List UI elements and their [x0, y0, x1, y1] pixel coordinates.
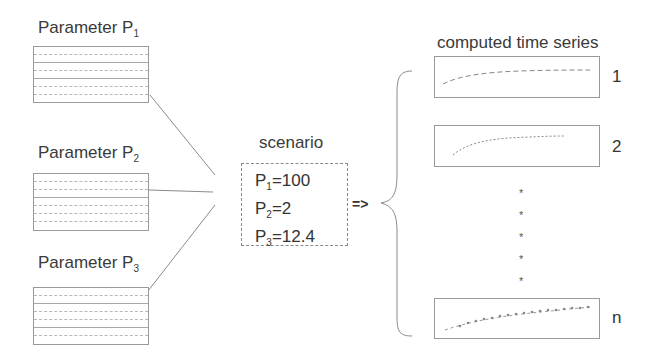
time-series-2-label: 2	[612, 137, 621, 157]
scenario-line-p2: P2=2	[255, 198, 347, 226]
connector-p2	[149, 190, 213, 192]
ellipsis-star: *	[519, 231, 523, 243]
param-name: P	[255, 227, 266, 246]
scenario-line-p3: P3=12.4	[255, 226, 347, 254]
table-row	[34, 79, 148, 87]
parameter-p3-title: Parameter P3	[38, 253, 139, 274]
table-row	[34, 206, 148, 214]
time-series-1-box	[434, 56, 600, 98]
table-row	[34, 182, 148, 190]
table-row	[34, 174, 148, 182]
table-row	[34, 71, 148, 79]
parameter-label: Parameter P	[38, 18, 133, 37]
table-row	[34, 47, 148, 55]
time-series-2-box	[434, 125, 600, 167]
time-series-1-label: 1	[612, 67, 621, 87]
parameter-p2-title: Parameter P2	[38, 143, 139, 164]
parameter-p1-table	[33, 46, 149, 103]
output-title: computed time series	[437, 33, 599, 53]
table-row	[34, 190, 148, 198]
parameter-subscript: 2	[133, 153, 139, 164]
parameter-p3-table	[33, 287, 149, 345]
param-value: =100	[272, 171, 310, 190]
table-row	[34, 304, 148, 312]
connector-p1	[150, 95, 215, 175]
ellipsis-star: *	[519, 275, 523, 287]
table-row	[34, 87, 148, 95]
param-value: =12.4	[272, 227, 315, 246]
table-row	[34, 312, 148, 320]
parameter-label: Parameter P	[38, 253, 133, 272]
parameter-p1-title: Parameter P1	[38, 18, 139, 39]
time-series-n-label: n	[612, 308, 621, 328]
parameter-label: Parameter P	[38, 143, 133, 162]
table-row	[34, 320, 148, 328]
param-value: =2	[272, 199, 291, 218]
scenario-title: scenario	[259, 133, 323, 153]
table-row	[34, 55, 148, 63]
ellipsis-star: *	[519, 187, 523, 199]
table-row	[34, 296, 148, 304]
ellipsis-star: *	[519, 209, 523, 221]
connector-p3	[148, 205, 215, 291]
table-row	[34, 198, 148, 206]
arrow-symbol: =>	[352, 196, 368, 212]
parameter-subscript: 1	[133, 28, 139, 39]
table-row	[34, 214, 148, 222]
scenario-line-p1: P1=100	[255, 170, 347, 198]
param-name: P	[255, 171, 266, 190]
param-name: P	[255, 199, 266, 218]
parameter-subscript: 3	[133, 263, 139, 274]
table-row	[34, 288, 148, 296]
table-row	[34, 63, 148, 71]
scenario-box: P1=100 P2=2 P3=12.4	[241, 163, 348, 246]
curly-brace	[381, 71, 412, 336]
ellipsis-star: *	[519, 253, 523, 265]
time-series-n-box	[434, 298, 600, 339]
parameter-p2-table	[33, 173, 149, 231]
table-row	[34, 328, 148, 336]
